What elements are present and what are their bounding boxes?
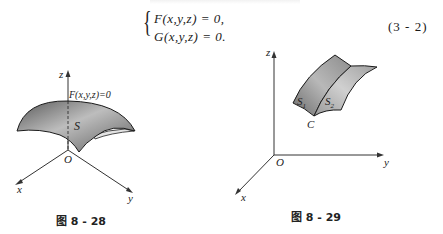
x-axis-label: x (17, 183, 22, 195)
intersecting-surfaces-figure (220, 40, 443, 234)
z-arrow (66, 70, 71, 77)
figure-8-28: z F(x,y,z)=0 S O x y 图 8 - 28 (0, 0, 200, 234)
s1-sub: 1 (303, 102, 307, 110)
s2-sub: 2 (331, 102, 335, 110)
curve-label-c: C (307, 118, 314, 130)
origin-label: O (64, 153, 72, 165)
y-axis-label: y (128, 192, 133, 204)
z-axis-label: z (266, 46, 270, 58)
equation-number: (3 - 2) (388, 19, 428, 35)
figure-8-29: z S1 S2 C O y x 图 8 - 29 (220, 40, 443, 234)
figure-caption-8-28: 图 8 - 28 (56, 212, 106, 228)
x-axis (238, 155, 274, 192)
surface-plot-figure (0, 0, 200, 234)
figure-caption-8-29: 图 8 - 29 (291, 208, 341, 224)
z-axis-label: z (59, 68, 63, 80)
surface-label-s1: S1 (297, 95, 306, 110)
x-axis (18, 150, 68, 183)
surface-label-s: S (74, 119, 80, 134)
x-axis-label: x (241, 191, 246, 203)
origin-label: O (276, 156, 284, 168)
surface-label-s2: S2 (325, 95, 334, 110)
y-axis (68, 150, 130, 191)
function-label: F(x,y,z)=0 (69, 89, 111, 100)
y-axis-label: y (384, 156, 389, 168)
